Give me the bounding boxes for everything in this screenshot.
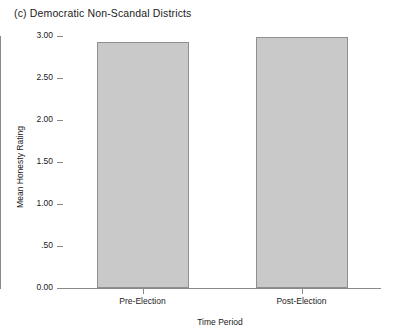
x-tick [143,289,144,294]
y-tick-label: 1.50 [36,156,53,166]
x-tick-label: Pre-Election [119,296,165,306]
y-tick: 1.50 [57,162,63,163]
bar [97,42,189,288]
y-tick-label: 3.00 [36,30,53,40]
x-tick [302,289,303,294]
chart-title: (c) Democratic Non-Scandal Districts [14,7,192,19]
x-tick-label: Post-Election [276,296,326,306]
y-tick: 3.00 [57,36,63,37]
y-tick: 0.00 [57,288,63,289]
bar [256,37,348,288]
y-tick: .50 [57,246,63,247]
x-axis-label: Time Period [60,317,380,327]
y-tick: 1.00 [57,204,63,205]
y-tick: 2.50 [57,78,63,79]
y-tick: 2.00 [57,120,63,121]
y-tick-label: .50 [41,240,53,250]
y-tick-label: 2.00 [36,114,53,124]
y-tick-label: 1.00 [36,198,53,208]
y-tick-label: 2.50 [36,72,53,82]
y-axis-line [0,36,1,289]
y-axis-label: Mean Honesty Rating [15,97,25,237]
y-tick-label: 0.00 [36,282,53,292]
x-axis-line [63,288,381,289]
chart-figure: (c) Democratic Non-Scandal Districts Mea… [0,0,393,336]
